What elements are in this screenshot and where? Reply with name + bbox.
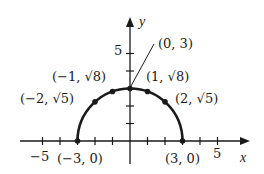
chart-canvas: y x −5 5 5 (−3, 0) (3, 0) (−2, √5) (−1, … [0,0,264,174]
x-tick-label-neg5: −5 [30,149,49,164]
data-point [75,138,81,144]
data-point [145,89,151,95]
semicircle-figure: y x −5 5 5 (−3, 0) (3, 0) (−2, √5) (−1, … [0,0,264,174]
data-point [127,86,133,92]
x-axis-label: x [239,150,247,165]
y-tick-label-5: 5 [114,43,122,58]
point-label-3-0: (3, 0) [165,151,200,166]
data-point [110,89,116,95]
point-label-1-sqrt8: (1, √8) [146,69,189,84]
point-label-2-sqrt5: (2, √5) [175,91,218,106]
point-label-neg3-0: (−3, 0) [57,151,103,166]
x-axis-arrow-icon [240,137,250,145]
point-label-0-3: (0, 3) [158,36,193,51]
x-tick-label-5: 5 [213,146,221,161]
point-label-neg1-sqrt8: (−1, √8) [52,69,106,84]
data-point [180,138,186,144]
point-label-neg2-sqrt5: (−2, √5) [20,91,74,106]
y-axis-label: y [137,14,146,29]
data-point [92,99,98,105]
y-axis-arrow-icon [126,17,134,27]
data-point [162,99,168,105]
